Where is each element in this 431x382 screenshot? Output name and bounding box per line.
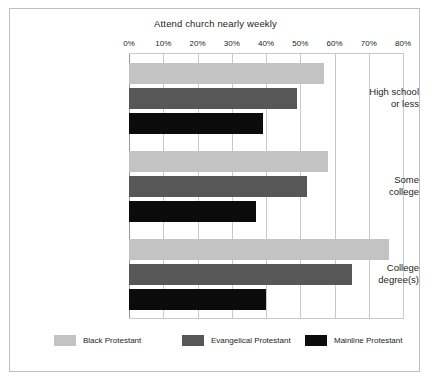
x-tick-label: 80% — [395, 39, 411, 48]
plot-bottom-border — [129, 318, 404, 319]
x-tick-label: 50% — [292, 39, 308, 48]
bar — [129, 289, 266, 310]
legend-swatch — [305, 335, 327, 346]
category-label: High schoolor less — [315, 86, 419, 109]
bar — [129, 201, 256, 222]
legend-item[interactable]: Black Protestant — [54, 335, 141, 346]
category-label-line: High school — [315, 86, 419, 98]
x-tick-label: 70% — [361, 39, 377, 48]
x-tick-label: 30% — [224, 39, 240, 48]
legend-item[interactable]: Mainline Protestant — [305, 335, 402, 346]
bar — [129, 151, 328, 172]
category-label-line: College — [315, 262, 419, 274]
bar — [129, 113, 263, 134]
x-tick-label: 20% — [189, 39, 205, 48]
legend-label: Black Protestant — [83, 336, 141, 345]
bar — [129, 63, 324, 84]
legend-label: Mainline Protestant — [334, 336, 402, 345]
category-label: Somecollege — [315, 174, 419, 197]
category-label-line: degree(s) — [315, 274, 419, 286]
x-tick-label: 40% — [258, 39, 274, 48]
bar — [129, 239, 389, 260]
legend-label: Evangelical Protestant — [211, 336, 291, 345]
legend-item[interactable]: Evangelical Protestant — [182, 335, 291, 346]
chart-legend: Black ProtestantEvangelical ProtestantMa… — [10, 335, 421, 359]
chart-frame: Attend church nearly weekly 0%10%20%30%4… — [9, 8, 420, 372]
category-label: Collegedegree(s) — [315, 262, 419, 285]
x-tick-label: 10% — [155, 39, 171, 48]
legend-swatch — [182, 335, 204, 346]
bar — [129, 88, 297, 109]
x-tick-label: 60% — [326, 39, 342, 48]
chart-title: Attend church nearly weekly — [10, 18, 421, 29]
category-label-line: or less — [315, 98, 419, 110]
x-tick-label: 0% — [123, 39, 135, 48]
category-label-line: Some — [315, 174, 419, 186]
legend-swatch — [54, 335, 76, 346]
bar — [129, 176, 307, 197]
category-label-line: college — [315, 186, 419, 198]
